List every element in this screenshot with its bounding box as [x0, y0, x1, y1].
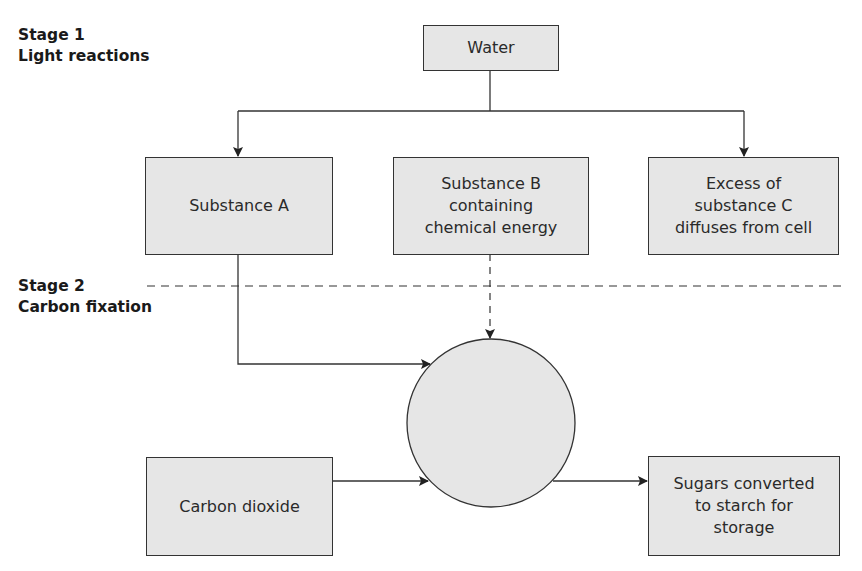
sugars-line3: storage: [714, 517, 775, 539]
water-label: Water: [467, 37, 514, 59]
carbon-dioxide-box: Carbon dioxide: [146, 457, 333, 556]
substance-b-box: Substance B containing chemical energy: [393, 157, 589, 255]
substance-b-line2: containing: [449, 195, 533, 217]
substance-a-box: Substance A: [145, 157, 333, 255]
sugars-box: Sugars converted to starch for storage: [648, 456, 840, 556]
substance-c-line2: substance C: [694, 195, 792, 217]
substance-b-line1: Substance B: [441, 173, 541, 195]
water-box: Water: [423, 25, 559, 71]
sugars-line1: Sugars converted: [673, 473, 814, 495]
calvin-cycle-circle: [407, 339, 575, 507]
sugars-line2: to starch for: [695, 495, 793, 517]
substance-b-line3: chemical energy: [425, 217, 558, 239]
carbon-dioxide-label: Carbon dioxide: [179, 496, 300, 518]
substance-a-label: Substance A: [189, 195, 289, 217]
arrow-a-to-circle: [238, 254, 430, 364]
substance-c-line3: diffuses from cell: [675, 217, 812, 239]
substance-c-line1: Excess of: [706, 173, 781, 195]
substance-c-box: Excess of substance C diffuses from cell: [648, 157, 839, 255]
